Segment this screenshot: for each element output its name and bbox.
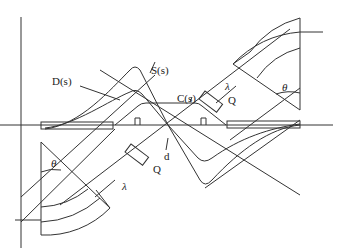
label-S: S(s) (151, 64, 169, 77)
D-curve (45, 90, 300, 161)
lower-dipole (15, 142, 110, 235)
right-marker (201, 118, 206, 125)
theta-upper-arc (276, 92, 300, 94)
theta-lower-arc (41, 169, 61, 172)
parallel-line-4 (205, 120, 300, 188)
lambda-lower-dim (95, 180, 115, 197)
label-d: d (164, 150, 170, 162)
left-marker (135, 118, 140, 125)
upper-dipole (233, 18, 323, 110)
upper-quadrupole (199, 91, 223, 112)
beam-optics-diagram: D(s) S(s) C(s) Q Q λ λ θ θ d (0, 0, 337, 252)
label-theta-upper: θ (282, 81, 288, 93)
cross-line-a (100, 70, 300, 195)
parallel-line-2 (21, 129, 115, 222)
lower-quadrupole (125, 144, 149, 165)
label-Q-upper: Q (228, 94, 236, 106)
label-Q-lower: Q (153, 163, 161, 175)
label-lambda-lower: λ (121, 180, 127, 192)
label-lambda-upper: λ (224, 80, 230, 92)
label-theta-lower: θ (51, 157, 57, 169)
label-D: D(s) (52, 75, 72, 88)
label-C: C(s) (177, 92, 196, 105)
